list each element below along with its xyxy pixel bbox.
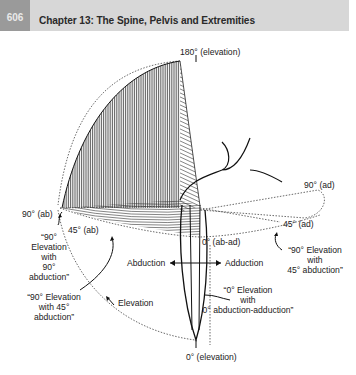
label-line: “90° Elevation: [24, 292, 84, 302]
label-90-ab: 90° (ab): [22, 209, 53, 219]
label-90-elevation-45-abduction-right: “90° Elevation with 45° abduction”: [280, 245, 350, 275]
label-line: 90°: [26, 262, 72, 272]
label-line: abduction”: [24, 312, 84, 322]
label-line: with: [198, 295, 298, 305]
label-line: with 45°: [24, 302, 84, 312]
label-line: 0° abduction-adduction”: [198, 305, 298, 315]
label-90-elevation-90-abduction: “90° Elevation with 90° abduction”: [26, 232, 72, 282]
label-90-elevation-45-abduction-left: “90° Elevation with 45° abduction”: [24, 292, 84, 322]
label-line: “90°: [26, 232, 72, 242]
label-line: abduction”: [26, 272, 72, 282]
label-elevation: Elevation: [118, 298, 153, 308]
label-0-ab-ad: 0° (ab-ad): [202, 237, 240, 247]
arm-outline: [181, 205, 207, 340]
hatch-line: [178, 60, 204, 72]
hatch-line: [178, 56, 204, 68]
label-0-elevation-0-abduction-adduction: “0° Elevation with 0° abduction-adductio…: [198, 285, 298, 315]
label-45-ad: 45° (ad): [283, 219, 314, 229]
label-abduction: Abduction: [127, 258, 165, 268]
label-line: 45° abduction”: [280, 265, 350, 275]
label-adduction: Adduction: [225, 258, 263, 268]
label-line: Elevation: [26, 242, 72, 252]
label-90-ad: 90° (ad): [304, 180, 335, 190]
label-45-ab: 45° (ab): [68, 225, 99, 235]
label-line: “90° Elevation: [280, 245, 350, 255]
label-180-elevation: 180° (elevation): [180, 47, 240, 57]
label-line: with: [280, 255, 350, 265]
label-0-elevation: 0° (elevation): [186, 352, 237, 362]
label-line: “0° Elevation: [198, 285, 298, 295]
elevation-plane-shading: [60, 60, 182, 210]
label-line: with: [26, 252, 72, 262]
